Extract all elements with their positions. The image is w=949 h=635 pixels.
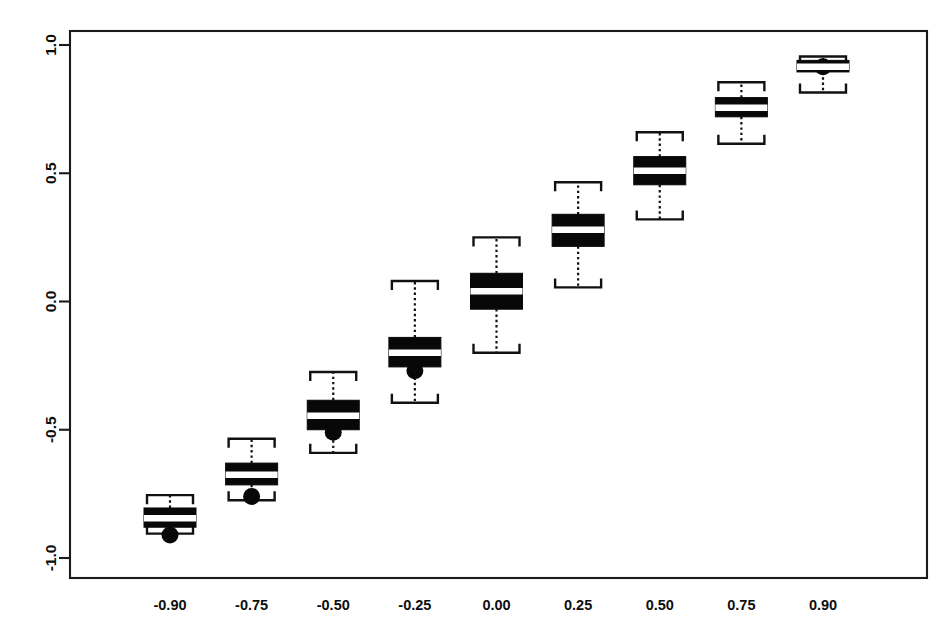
y-tick-label: -1.0 (42, 545, 59, 572)
y-axis-ticks (59, 45, 70, 558)
y-axis-tick-labels: -1.0-0.50.00.51.0 (42, 34, 59, 571)
box-plot-group (307, 372, 359, 453)
outlier-point (243, 488, 260, 505)
y-tick-label: -0.5 (42, 416, 59, 443)
x-tick-label: -0.50 (317, 597, 350, 613)
x-tick-label: 0.90 (809, 597, 837, 613)
x-tick-label: 0.50 (646, 597, 674, 613)
box-plot-group (144, 495, 196, 543)
x-tick-label: 0.75 (727, 597, 755, 613)
box-plot-group (634, 132, 686, 219)
x-tick-label: 0.25 (564, 597, 592, 613)
box-plot-series (144, 57, 849, 544)
box-plot-group (715, 82, 767, 144)
outlier-point (325, 424, 342, 441)
x-tick-label: -0.75 (235, 597, 268, 613)
x-tick-label: -0.25 (398, 597, 431, 613)
box-plot-group (471, 237, 523, 352)
x-tick-label: 0.00 (482, 597, 510, 613)
boxplot-figure: -1.0-0.50.00.51.0 -0.90-0.75-0.50-0.250.… (0, 0, 949, 635)
y-tick-label: 1.0 (42, 34, 59, 56)
box-plot-group (226, 439, 278, 505)
box-plot-group (797, 57, 849, 93)
x-axis-tick-labels: -0.90-0.75-0.50-0.250.000.250.500.750.90 (153, 597, 837, 613)
y-tick-label: 0.0 (42, 291, 59, 313)
y-tick-label: 0.5 (42, 162, 59, 184)
boxplot-canvas: -1.0-0.50.00.51.0 -0.90-0.75-0.50-0.250.… (0, 0, 949, 635)
x-tick-label: -0.90 (153, 597, 186, 613)
box-plot-group (389, 281, 441, 403)
box-plot-group (552, 182, 604, 287)
outlier-point (162, 526, 179, 543)
outlier-point (406, 362, 423, 379)
